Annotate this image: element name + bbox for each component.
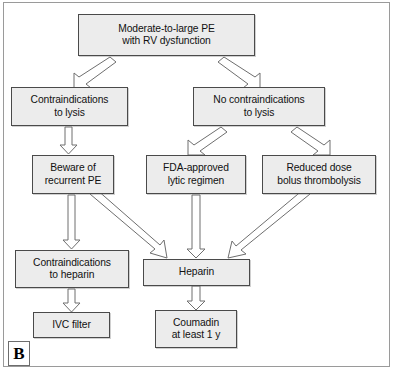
flowchart-figure: Moderate-to-large PE with RV dysfunction… [0, 0, 394, 371]
node-beware-of-recurrent-pe: Beware of recurrent PE [32, 155, 114, 194]
node-contraindications-to-lysis: Contraindications to lysis [11, 87, 128, 126]
arrow-beware-to-contraindications-heparin [63, 195, 80, 249]
arrow-beware-to-heparin [90, 189, 167, 258]
arrow-contraindications-lysis-to-beware [60, 127, 77, 154]
arrow-heparin-to-coumadin [187, 286, 205, 310]
arrow-pe-to-contraindications-lysis [74, 57, 116, 88]
arrow-fda-to-heparin [187, 195, 205, 258]
node-no-contraindications-to-lysis: No contraindications to lysis [193, 87, 325, 126]
panel-label-b: B [8, 341, 30, 366]
node-ivc-filter: IVC filter [33, 312, 110, 338]
arrow-contraindications-heparin-to-ivc [63, 289, 80, 312]
node-contraindications-to-heparin: Contraindications to heparin [15, 250, 129, 288]
arrow-reduced-dose-to-heparin [228, 189, 310, 258]
node-coumadin-at-least-1-y: Coumadin at least 1 y [155, 310, 237, 348]
arrow-no-contraindications-to-reduced-dose [291, 127, 330, 155]
arrow-pe-to-no-contraindications-lysis [218, 57, 260, 88]
node-moderate-to-large-pe: Moderate-to-large PE with RV dysfunction [78, 14, 255, 56]
arrow-no-contraindications-to-fda [188, 127, 227, 155]
node-reduced-dose-bolus-thrombolysis: Reduced dose bolus thrombolysis [262, 155, 376, 194]
node-heparin: Heparin [143, 259, 250, 286]
node-fda-approved-lytic-regimen: FDA-approved lytic regimen [146, 155, 246, 194]
